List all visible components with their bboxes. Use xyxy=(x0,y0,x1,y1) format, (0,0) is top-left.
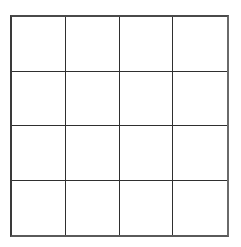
grid-diagram xyxy=(10,15,229,237)
grid-cell xyxy=(66,72,120,127)
grid-cell xyxy=(12,126,66,181)
grid-cell xyxy=(120,72,174,127)
grid-cell xyxy=(173,72,227,127)
grid-cell xyxy=(120,126,174,181)
grid-cell xyxy=(120,17,174,72)
grid-cell xyxy=(12,181,66,236)
grid-cell xyxy=(66,181,120,236)
grid-cell xyxy=(66,126,120,181)
grid-cell xyxy=(173,126,227,181)
grid-cell xyxy=(12,17,66,72)
grid-cell xyxy=(173,17,227,72)
grid-cell xyxy=(120,181,174,236)
grid-cell xyxy=(12,72,66,127)
grid-cell xyxy=(66,17,120,72)
grid-cell xyxy=(173,181,227,236)
